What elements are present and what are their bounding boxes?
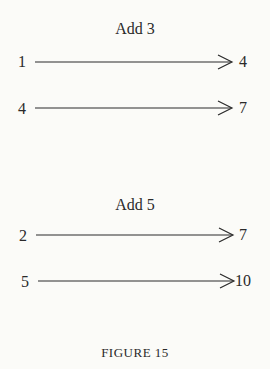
figure-caption: FIGURE 15 [0, 345, 270, 361]
group-title: Add 5 [0, 196, 270, 214]
output-value: 4 [239, 54, 247, 70]
output-value: 7 [239, 100, 247, 116]
input-value: 1 [18, 54, 26, 70]
input-value: 4 [18, 101, 26, 117]
group-title: Add 3 [0, 20, 270, 38]
arrow-icon [35, 61, 235, 63]
input-value: 5 [21, 274, 29, 290]
input-value: 2 [19, 228, 27, 244]
output-value: 7 [239, 227, 247, 243]
arrow-icon [38, 280, 238, 282]
output-value: 10 [235, 273, 251, 289]
arrow-icon [35, 107, 235, 109]
arrow-icon [36, 234, 236, 236]
